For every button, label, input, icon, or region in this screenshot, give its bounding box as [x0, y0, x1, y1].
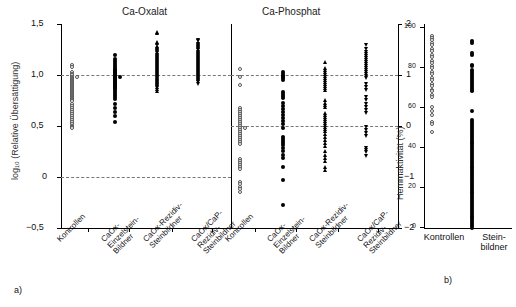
- figure-root: Ca-Oxalat Ca-Phosphat log₁₀ (Relative Üb…: [0, 0, 516, 307]
- cat-label-b-steinbildner: Stein-bildner: [472, 232, 516, 252]
- data-point: [238, 67, 242, 71]
- data-point: [364, 111, 368, 115]
- panel-title-ca-phosphat: Ca-Phosphat: [262, 6, 320, 17]
- data-point: [281, 178, 285, 182]
- y-tick-b-20: [420, 187, 424, 188]
- data-point: [364, 88, 368, 92]
- cat-label-oxalat-einzelstein: CaOx-Einzelstein-Bildner: [100, 209, 147, 256]
- data-point: [238, 190, 242, 194]
- data-point: [281, 203, 285, 207]
- data-point: [243, 126, 247, 130]
- data-point: [364, 134, 368, 138]
- y-ticklabel-b-0: 0: [412, 222, 416, 229]
- y-ticklabel-right-3: −1: [404, 171, 414, 181]
- y-tick-left-0: [57, 24, 61, 25]
- data-point: [364, 154, 368, 158]
- cat-label-b-kontrollen: Kontrollen: [414, 232, 474, 242]
- data-point: [155, 31, 159, 35]
- panel-b-id: b): [444, 275, 452, 285]
- cat-label-oxalat-rezidiv: CaOx-Rezidiv-Steinbildner: [142, 201, 191, 250]
- y-ticklabel-b-60: 60: [408, 102, 416, 109]
- data-point: [281, 156, 285, 160]
- data-point: [155, 89, 159, 93]
- data-point: [470, 41, 474, 45]
- data-point: [238, 83, 242, 87]
- data-point: [75, 75, 79, 79]
- reference-line-left-0: [61, 177, 231, 178]
- data-point: [281, 165, 285, 169]
- y-ticklabel-right-1: 1: [406, 69, 411, 79]
- y-ticklabel-b-40: 40: [408, 142, 416, 149]
- x-axis-line-panel-b: [424, 228, 512, 229]
- x-tick-ox-1: [88, 228, 89, 232]
- y-tick-b-100: [420, 27, 424, 28]
- cat-label-line: Stein-: [472, 232, 516, 242]
- panel-title-ca-oxalat: Ca-Oxalat: [122, 6, 167, 17]
- data-point: [281, 78, 285, 82]
- data-point: [470, 109, 474, 113]
- data-point: [470, 53, 474, 57]
- data-point: [281, 126, 285, 130]
- y-axis-b-line: [424, 24, 425, 228]
- data-point: [196, 82, 200, 86]
- y-ticklabel-left-2: 0,5: [31, 120, 44, 130]
- data-point: [430, 122, 434, 126]
- cat-label-phosphat-einzelstein: CaOx-Einzelstein-Bildner: [266, 209, 313, 256]
- y-tick-right-0: [398, 24, 402, 25]
- data-point: [113, 114, 117, 118]
- panel-a-id: a): [14, 285, 22, 295]
- reference-line-right-1: [231, 75, 398, 76]
- y-ticklabel-left-3: 0: [42, 171, 47, 181]
- cat-label-line: bildner: [472, 242, 516, 252]
- y-ticklabel-right-2: 0: [406, 120, 411, 130]
- y-ticklabel-b-100: 100: [404, 22, 416, 29]
- data-point: [113, 120, 117, 124]
- data-point: [238, 167, 242, 171]
- data-point: [118, 75, 122, 79]
- y-ticklabel-left-0: 1,5: [31, 18, 44, 28]
- reference-line-left-1: [61, 75, 231, 76]
- y-tick-b-60: [420, 107, 424, 108]
- data-point: [113, 97, 117, 101]
- data-point: [281, 96, 285, 100]
- cat-label-phosphat-caox-cap: CaOx/CaP-Rezidiv-Steinbildner: [356, 208, 404, 256]
- cat-label-line: Kontrollen: [414, 232, 474, 242]
- data-point: [430, 95, 434, 99]
- y-tick-b-40: [420, 147, 424, 148]
- data-point: [323, 168, 327, 172]
- data-point: [430, 113, 434, 117]
- data-point: [323, 144, 327, 148]
- y-ticklabel-b-80: 80: [408, 62, 416, 69]
- x-tick-ph-1: [255, 228, 256, 232]
- reference-line-right-0: [231, 126, 398, 127]
- data-point: [70, 126, 74, 130]
- y-tick-left-2: [57, 126, 61, 127]
- data-point: [430, 130, 434, 134]
- y-tick-right-1: [398, 75, 402, 76]
- data-point: [323, 159, 327, 163]
- data-point: [470, 89, 474, 93]
- data-point: [323, 60, 327, 64]
- data-point: [238, 142, 242, 146]
- data-point: [70, 65, 74, 69]
- y-ticklabel-b-20: 20: [408, 182, 416, 189]
- data-point: [323, 105, 327, 109]
- y-tick-b-80: [420, 67, 424, 68]
- y-ticklabel-left-1: 1,0: [31, 69, 44, 79]
- y-ticklabel-left-4: −0,5: [26, 222, 44, 232]
- y-axis-label-inhibition: Hemmaktivität (%): [395, 126, 405, 200]
- cat-label-phosphat-rezidiv: CaOx-Rezidiv-Steinbildner: [308, 201, 357, 250]
- data-point: [323, 88, 327, 92]
- y-axis-left-line: [61, 24, 62, 228]
- data-point: [470, 226, 474, 230]
- y-axis-label-left: log₁₀ (Relative Übersättigung): [10, 62, 20, 180]
- data-point: [238, 75, 242, 79]
- data-point: [364, 76, 368, 80]
